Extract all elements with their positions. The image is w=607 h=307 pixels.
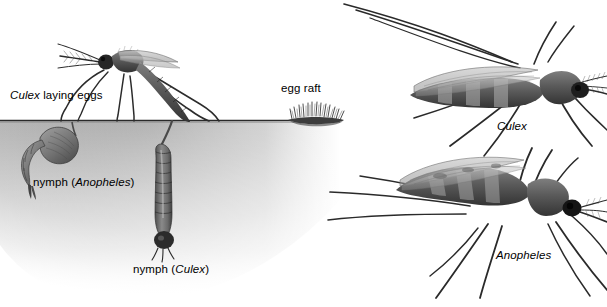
label-adult-anopheles-genus: Anopheles	[496, 249, 551, 261]
label-nymph-anopheles: nymph (Anopheles)	[33, 176, 134, 189]
label-culex-laying-text: laying eggs	[40, 89, 103, 101]
label-adult-culex-genus: Culex	[497, 120, 527, 132]
label-nymph-anopheles-prefix: nymph (	[33, 176, 75, 188]
anopheles-adult-thorax	[527, 178, 569, 216]
label-nymph-anopheles-suffix: )	[131, 176, 135, 188]
label-nymph-culex-genus: Culex	[175, 263, 205, 275]
label-nymph-culex-suffix: )	[205, 263, 209, 275]
label-culex-laying-eggs: Culex laying eggs	[10, 89, 102, 102]
label-nymph-culex: nymph (Culex)	[133, 263, 209, 276]
label-egg-raft-text: egg raft	[281, 82, 321, 94]
label-adult-anopheles: Anopheles	[496, 249, 551, 262]
label-egg-raft: egg raft	[281, 82, 321, 95]
label-nymph-anopheles-genus: Anopheles	[75, 176, 130, 188]
mosquito-life-cycle-figure: Culex laying eggs egg raft nymph (Anophe…	[0, 0, 607, 307]
label-nymph-culex-prefix: nymph (	[133, 263, 175, 275]
label-adult-culex: Culex	[497, 120, 527, 133]
label-culex-laying-genus: Culex	[10, 89, 40, 101]
